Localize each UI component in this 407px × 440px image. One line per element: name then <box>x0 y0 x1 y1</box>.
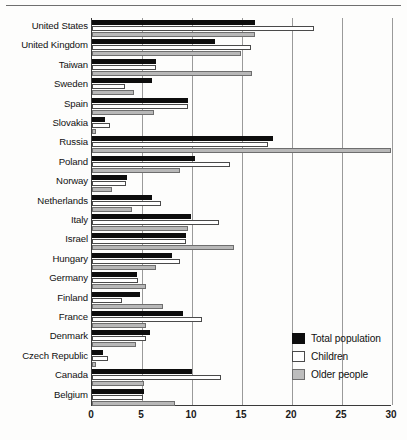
bar-children <box>92 65 156 70</box>
legend-swatch-total <box>292 333 305 344</box>
bar-children <box>92 123 110 128</box>
category-label: Israel <box>0 234 88 244</box>
category-label: Germany <box>0 273 88 283</box>
bar-group <box>92 115 391 134</box>
bar-total <box>92 98 188 103</box>
bar-total <box>92 214 191 219</box>
bar-older <box>92 284 146 289</box>
bar-older <box>92 32 255 37</box>
bar-older <box>92 245 234 250</box>
bar-older <box>92 381 144 386</box>
category-label: Russia <box>0 137 88 147</box>
bar-older <box>92 187 112 192</box>
category-label: France <box>0 312 88 322</box>
category-label: Hungary <box>0 254 88 264</box>
bar-children <box>92 142 268 147</box>
bar-older <box>92 71 252 76</box>
bar-older <box>92 362 96 367</box>
bar-group <box>92 173 391 192</box>
bar-group <box>92 387 391 406</box>
bar-total <box>92 195 152 200</box>
bar-group <box>92 134 391 153</box>
bar-total <box>92 20 255 25</box>
legend-label: Older people <box>311 369 368 380</box>
category-label: Netherlands <box>0 196 88 206</box>
bar-total <box>92 369 192 374</box>
bar-total <box>92 78 152 83</box>
x-tick-label: 30 <box>385 409 396 420</box>
category-label: Canada <box>0 370 88 380</box>
bar-total <box>92 311 183 316</box>
bar-older <box>92 304 163 309</box>
bar-older <box>92 226 188 231</box>
bar-children <box>92 278 138 283</box>
bar-group <box>92 154 391 173</box>
value-axis-tick-labels: 051015202530 <box>91 409 391 425</box>
bar-total <box>92 156 195 161</box>
bar-children <box>92 317 202 322</box>
category-label: Poland <box>0 157 88 167</box>
bar-children <box>92 259 180 264</box>
bar-children <box>92 84 125 89</box>
legend-swatch-older <box>292 369 305 380</box>
category-label: Denmark <box>0 331 88 341</box>
bar-children <box>92 356 108 361</box>
legend-swatch-children <box>292 351 305 362</box>
bar-group <box>92 57 391 76</box>
poverty-rate-grouped-bar-chart: United StatesUnited KingdomTaiwanSwedenS… <box>0 0 407 440</box>
bar-children <box>92 375 221 380</box>
category-label: Italy <box>0 215 88 225</box>
bar-group <box>92 212 391 231</box>
bar-older <box>92 129 96 134</box>
category-label: Belgium <box>0 390 88 400</box>
bar-total <box>92 59 156 64</box>
x-tick-label: 10 <box>185 409 196 420</box>
bar-children <box>92 162 230 167</box>
bar-total <box>92 253 172 258</box>
bar-children <box>92 220 219 225</box>
bar-older <box>92 207 132 212</box>
category-label: Czech Republic <box>0 351 88 361</box>
bar-group <box>92 270 391 289</box>
chart-legend: Total populationChildrenOlder people <box>292 330 404 384</box>
bar-older <box>92 51 241 56</box>
bar-older <box>92 148 391 153</box>
bar-group <box>92 251 391 270</box>
category-label: Slovakia <box>0 118 88 128</box>
x-tick-label: 20 <box>285 409 296 420</box>
x-tick-label: 0 <box>88 409 94 420</box>
category-label: Sweden <box>0 79 88 89</box>
category-label: Taiwan <box>0 60 88 70</box>
bar-children <box>92 239 186 244</box>
bar-children <box>92 395 143 400</box>
legend-label: Children <box>311 351 348 362</box>
top-divider-rule <box>6 5 401 6</box>
bar-group <box>92 309 391 328</box>
bar-total <box>92 272 137 277</box>
bar-total <box>92 389 144 394</box>
bar-group <box>92 193 391 212</box>
legend-item: Older people <box>292 366 404 383</box>
category-label: United States <box>0 21 88 31</box>
category-axis-labels: United StatesUnited KingdomTaiwanSwedenS… <box>0 18 88 406</box>
bar-group <box>92 231 391 250</box>
bar-total <box>92 39 215 44</box>
bar-total <box>92 117 105 122</box>
bar-older <box>92 323 146 328</box>
category-label: Finland <box>0 293 88 303</box>
bar-children <box>92 181 126 186</box>
bar-group <box>92 37 391 56</box>
bar-total <box>92 233 186 238</box>
bar-children <box>92 336 146 341</box>
bar-older <box>92 168 180 173</box>
bar-older <box>92 110 154 115</box>
bar-older <box>92 342 136 347</box>
legend-label: Total population <box>311 333 381 344</box>
legend-item: Total population <box>292 330 404 347</box>
bar-total <box>92 350 103 355</box>
category-label: United Kingdom <box>0 40 88 50</box>
x-tick-label: 25 <box>335 409 346 420</box>
bar-group <box>92 18 391 37</box>
bar-children <box>92 201 161 206</box>
category-label: Spain <box>0 99 88 109</box>
